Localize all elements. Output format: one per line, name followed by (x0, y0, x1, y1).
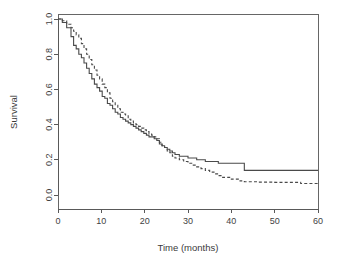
survival-plot-figure: 0.00.20.40.60.81.0 0102030405060 Time (m… (0, 0, 337, 265)
x-axis-title: Time (months) (158, 242, 219, 253)
x-tick-label: 60 (313, 216, 323, 226)
x-tick-label: 10 (96, 216, 106, 226)
x-tick-label: 30 (183, 216, 193, 226)
y-tick-label: 0.6 (44, 83, 54, 96)
y-axis-title: Survival (8, 95, 19, 129)
y-tick-label: 0.8 (44, 48, 54, 61)
x-tick-label: 50 (270, 216, 280, 226)
x-tick-label: 40 (226, 216, 236, 226)
y-tick-label: 0.0 (44, 189, 54, 202)
x-tick-label: 0 (55, 216, 60, 226)
x-tick-label: 20 (140, 216, 150, 226)
y-tick-label: 0.2 (44, 154, 54, 167)
km-plot-svg: 0.00.20.40.60.81.0 0102030405060 Time (m… (0, 0, 337, 265)
y-tick-label: 1.0 (44, 13, 54, 26)
figure-background (0, 0, 337, 265)
y-tick-label: 0.4 (44, 118, 54, 131)
